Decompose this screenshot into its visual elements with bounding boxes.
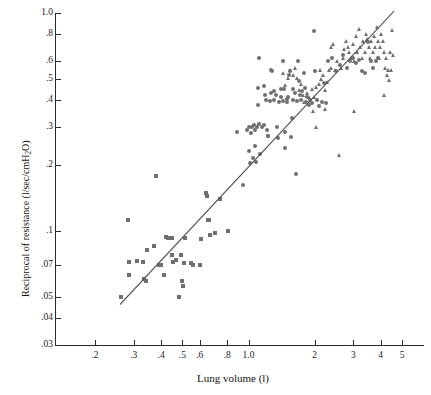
- regression-line: [0, 0, 431, 395]
- scatter-plot: 1.0.8.6.5.4.3.2.1.07.05.04.03 .2.3.4.5.6…: [0, 0, 431, 395]
- y-axis-title: Reciprocal of resistance (l/sec/cmH2O): [20, 140, 33, 297]
- x-axis-title: Lung volume (l): [0, 372, 431, 384]
